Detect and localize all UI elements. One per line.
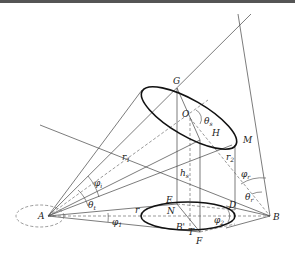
arc-theta-s bbox=[196, 110, 201, 124]
label-M: M bbox=[242, 135, 253, 145]
label-O: O bbox=[182, 109, 190, 119]
dashed-F-lower bbox=[200, 224, 235, 232]
label-D: D bbox=[228, 200, 236, 210]
label-B: B bbox=[272, 212, 280, 222]
label-F: F bbox=[195, 236, 203, 246]
label-N: N bbox=[166, 206, 176, 216]
label-r2: r2 bbox=[226, 152, 234, 163]
cone-side-upper bbox=[48, 90, 142, 216]
line-B-lower bbox=[226, 216, 270, 228]
label-r: r bbox=[135, 205, 140, 215]
label-phi-2: φ2 bbox=[214, 215, 224, 226]
cone-side-lower bbox=[48, 145, 232, 216]
label-phi-1: φ1 bbox=[112, 217, 122, 228]
label-theta-s: θs bbox=[204, 116, 213, 127]
label-A: A bbox=[37, 211, 45, 221]
label-H: H bbox=[211, 128, 220, 138]
label-T: T bbox=[188, 227, 195, 237]
line-A-to-top-right bbox=[48, 14, 251, 216]
label-E: E bbox=[165, 195, 173, 205]
line-B-to-top bbox=[238, 14, 270, 216]
cone-diagram: G O θs H M r1 r2 hs φi θt E φr θr A B r … bbox=[0, 0, 295, 258]
label-phi-r: φr bbox=[241, 169, 251, 180]
label-hs: hs bbox=[180, 168, 189, 179]
label-B-prime: B' bbox=[175, 222, 185, 232]
label-phi-i: φi bbox=[94, 178, 102, 189]
arc-theta-r bbox=[252, 192, 262, 194]
label-G: G bbox=[173, 76, 180, 86]
label-theta-t: θt bbox=[88, 200, 96, 211]
diagram-root: G O θs H M r1 r2 hs φi θt E φr θr A B r … bbox=[0, 0, 295, 258]
label-r1: r1 bbox=[122, 152, 130, 163]
